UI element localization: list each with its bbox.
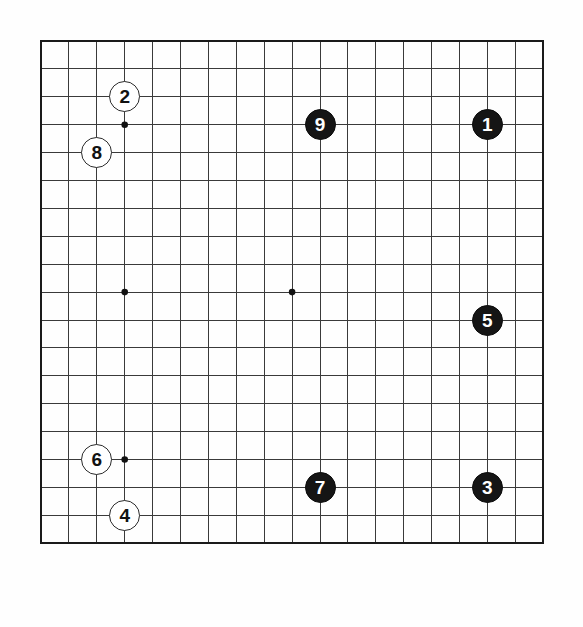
stone-number-label: 1 <box>482 115 493 134</box>
star-point <box>121 456 128 463</box>
stone-number-label: 6 <box>92 450 103 469</box>
stone-number-label: 2 <box>119 87 130 106</box>
stone-black-1[interactable]: 1 <box>472 109 503 140</box>
star-point <box>289 289 296 296</box>
go-board[interactable]: 123456789 <box>38 38 546 593</box>
stone-white-4[interactable]: 4 <box>109 500 140 531</box>
stone-black-7[interactable]: 7 <box>305 472 336 503</box>
go-board-figure: 123456789 <box>0 0 583 627</box>
stone-number-label: 5 <box>482 310 493 329</box>
stone-number-label: 9 <box>315 115 326 134</box>
stone-black-3[interactable]: 3 <box>472 472 503 503</box>
star-point <box>121 289 128 296</box>
stone-black-9[interactable]: 9 <box>305 109 336 140</box>
stone-number-label: 3 <box>482 477 493 496</box>
stone-black-5[interactable]: 5 <box>472 305 503 336</box>
star-point <box>121 121 128 128</box>
stone-number-label: 8 <box>92 143 103 162</box>
stone-number-label: 4 <box>119 505 130 524</box>
stone-number-label: 7 <box>315 477 326 496</box>
